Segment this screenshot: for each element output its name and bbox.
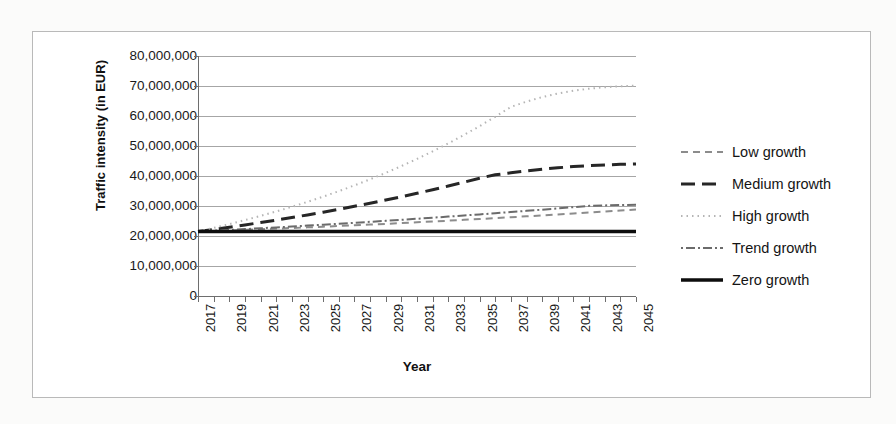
x-axis-tick-label: 2025	[328, 304, 343, 332]
x-axis-tick-mark	[198, 297, 199, 302]
legend-label: Low growth	[732, 144, 806, 160]
y-axis-tick-label: 60,000,000	[129, 109, 197, 123]
x-axis-tick-mark	[292, 297, 293, 302]
series-line	[198, 205, 636, 232]
x-axis-tick-mark	[339, 297, 340, 302]
x-axis-tick-mark	[308, 297, 309, 302]
x-axis-tick-mark	[386, 297, 387, 302]
x-axis-tick-label: 2043	[610, 304, 625, 332]
legend-label: High growth	[732, 208, 809, 224]
x-axis-tick-label: 2027	[359, 304, 374, 332]
legend-line-swatch	[681, 242, 723, 254]
x-axis-tick-label: 2031	[422, 304, 437, 332]
x-axis-tick-label: 2039	[547, 304, 562, 332]
x-axis-tick-mark	[261, 297, 262, 302]
x-axis-tick-label: 2045	[641, 304, 656, 332]
x-axis-tick-mark	[448, 297, 449, 302]
x-axis-tick-label: 2033	[453, 304, 468, 332]
legend-label: Trend growth	[732, 240, 817, 256]
legend-item: Trend growth	[681, 234, 861, 262]
y-axis-tick-labels: 80,000,00070,000,00060,000,00050,000,000…	[77, 45, 197, 299]
x-axis-tick-mark	[589, 297, 590, 302]
legend-item: Medium growth	[681, 170, 861, 198]
y-axis-tick-label: 10,000,000	[129, 259, 197, 273]
chart-frame: Traffic intensity (in EUR) 80,000,00070,…	[32, 31, 871, 398]
legend-line-swatch	[681, 210, 723, 222]
x-axis-tick-label: 2019	[234, 304, 249, 332]
legend-item: Zero growth	[681, 266, 861, 294]
series-line	[198, 210, 636, 232]
x-axis-tick-mark	[620, 297, 621, 302]
y-axis-tick-label: 30,000,000	[129, 199, 197, 213]
legend-label: Medium growth	[732, 176, 831, 192]
plot-area	[198, 56, 636, 296]
x-axis-tick-label: 2029	[391, 304, 406, 332]
y-axis-tick-label: 50,000,000	[129, 139, 197, 153]
series-lines	[198, 56, 636, 296]
legend-item: High growth	[681, 202, 861, 230]
x-axis-tick-label: 2041	[578, 304, 593, 332]
x-axis-tick-mark	[527, 297, 528, 302]
y-axis-tick-label: 20,000,000	[129, 229, 197, 243]
x-axis-tick-label: 2035	[485, 304, 500, 332]
x-axis-tick-label: 2037	[516, 304, 531, 332]
x-axis-tick-mark	[229, 297, 230, 302]
y-axis-tick-label: 80,000,000	[129, 49, 197, 63]
y-axis-tick-label: 70,000,000	[129, 79, 197, 93]
legend-line-swatch	[681, 146, 723, 158]
legend-line-swatch	[681, 178, 723, 190]
x-axis-tick-mark	[558, 297, 559, 302]
x-axis-tick-mark	[214, 297, 215, 302]
x-axis-tick-mark	[511, 297, 512, 302]
x-axis-tick-mark	[276, 297, 277, 302]
legend-item: Low growth	[681, 138, 861, 166]
x-axis-tick-label: 2021	[266, 304, 281, 332]
x-axis-title: Year	[198, 359, 636, 374]
x-axis-tick-mark	[401, 297, 402, 302]
series-line	[198, 86, 636, 232]
y-axis-tick-label: 40,000,000	[129, 169, 197, 183]
legend-label: Zero growth	[732, 272, 809, 288]
x-axis-tick-mark	[417, 297, 418, 302]
x-axis-tick-mark	[542, 297, 543, 302]
page-background: Traffic intensity (in EUR) 80,000,00070,…	[0, 0, 896, 424]
x-axis-tick-mark	[370, 297, 371, 302]
x-axis-tick-mark	[636, 297, 637, 302]
x-axis-tick-mark	[433, 297, 434, 302]
x-axis-tick-mark	[323, 297, 324, 302]
chart-legend: Low growthMedium growthHigh growthTrend …	[681, 138, 861, 298]
x-axis-tick-mark	[245, 297, 246, 302]
x-axis-tick-mark	[480, 297, 481, 302]
x-axis-tick-label: 2023	[297, 304, 312, 332]
x-axis-tick-mark	[573, 297, 574, 302]
x-axis-tick-mark	[354, 297, 355, 302]
legend-line-swatch	[681, 274, 723, 286]
x-axis-tick-mark	[464, 297, 465, 302]
x-axis-tick-label: 2017	[203, 304, 218, 332]
x-axis-tick-mark	[605, 297, 606, 302]
x-axis-tick-mark	[495, 297, 496, 302]
